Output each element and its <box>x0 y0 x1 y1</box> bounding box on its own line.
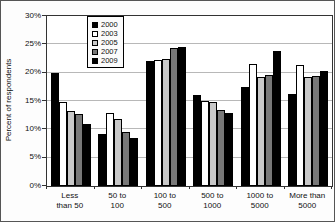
legend-label-2003: 2003 <box>101 29 118 38</box>
chart-figure: Percent of respondents 0%5%10%15%20%25%3… <box>0 0 335 222</box>
xtick-mark <box>46 186 47 189</box>
legend-item-2009: 2009 <box>92 56 118 65</box>
legend-swatch-2005 <box>92 40 98 46</box>
bar-2000-50-to-100 <box>98 134 106 186</box>
bar-2007-less-than-50 <box>75 114 83 186</box>
xcat-label-500-to-1000: 500 to1000 <box>189 191 237 210</box>
legend-swatch-2000 <box>92 22 98 28</box>
ytick-label-0pct: 0% <box>5 181 41 190</box>
legend-item-2000: 2000 <box>92 20 118 29</box>
ytick-label-10pct: 10% <box>5 124 41 133</box>
legend-label-2000: 2000 <box>101 20 118 29</box>
legend-label-2005: 2005 <box>101 38 118 47</box>
bar-2003-1000-to-5000 <box>249 64 257 186</box>
xcat-label-more-than-5000: More than5000 <box>284 191 332 210</box>
bar-2007-1000-to-5000 <box>265 75 273 186</box>
bar-2000-100-to-500 <box>146 61 154 186</box>
gridline-20pct <box>47 72 332 73</box>
xcat-label-1000-to-5000: 1000 to5000 <box>236 191 284 210</box>
ytick-label-20pct: 20% <box>5 67 41 76</box>
ytick-label-15pct: 15% <box>5 96 41 105</box>
bar-2000-more-than-5000 <box>288 94 296 186</box>
bar-2000-1000-to-5000 <box>241 87 249 186</box>
bar-2003-50-to-100 <box>106 113 114 186</box>
bar-2003-500-to-1000 <box>201 101 209 186</box>
bar-2009-50-to-100 <box>130 138 138 186</box>
bar-2007-more-than-5000 <box>312 76 320 186</box>
bar-2007-100-to-500 <box>170 48 178 186</box>
xcat-label-less-than-50: Lessthan 50 <box>46 191 94 210</box>
ytick-label-30pct: 30% <box>5 11 41 20</box>
legend-swatch-2009 <box>92 58 98 64</box>
legend-item-2003: 2003 <box>92 29 118 38</box>
bar-2005-1000-to-5000 <box>257 77 265 186</box>
bar-2005-100-to-500 <box>162 59 170 186</box>
bar-2005-less-than-50 <box>67 111 75 186</box>
legend-label-2009: 2009 <box>101 56 118 65</box>
bar-2007-500-to-1000 <box>217 110 225 186</box>
legend-item-2007: 2007 <box>92 47 118 56</box>
xtick-mark <box>94 186 95 189</box>
xcat-label-50-to-100: 50 to100 <box>94 191 142 210</box>
bar-2005-more-than-5000 <box>304 77 312 186</box>
legend: 20002003200520072009 <box>87 16 124 68</box>
xtick-mark <box>141 186 142 189</box>
xtick-mark <box>284 186 285 189</box>
bar-2005-500-to-1000 <box>209 102 217 186</box>
bar-2009-more-than-5000 <box>320 71 328 186</box>
legend-label-2007: 2007 <box>101 47 118 56</box>
bar-2009-less-than-50 <box>83 124 91 186</box>
legend-swatch-2003 <box>92 31 98 37</box>
legend-item-2005: 2005 <box>92 38 118 47</box>
xtick-mark <box>331 186 332 189</box>
bar-2007-50-to-100 <box>122 132 130 186</box>
xtick-mark <box>189 186 190 189</box>
bar-2009-500-to-1000 <box>225 113 233 186</box>
bar-2009-100-to-500 <box>178 47 186 186</box>
bar-2005-50-to-100 <box>114 119 122 186</box>
ytick-label-5pct: 5% <box>5 152 41 161</box>
bar-2000-500-to-1000 <box>193 95 201 186</box>
xcat-label-100-to-500: 100 to500 <box>141 191 189 210</box>
legend-swatch-2007 <box>92 49 98 55</box>
ytick-label-25pct: 25% <box>5 39 41 48</box>
bar-2003-less-than-50 <box>59 102 67 186</box>
bar-2003-100-to-500 <box>154 60 162 186</box>
xtick-mark <box>236 186 237 189</box>
bar-2003-more-than-5000 <box>296 65 304 186</box>
bar-2000-less-than-50 <box>51 73 59 186</box>
bar-2009-1000-to-5000 <box>273 51 281 186</box>
